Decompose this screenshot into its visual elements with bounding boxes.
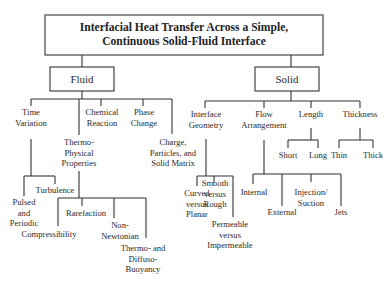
- heat-transfer-tree-diagram: Interfacial Heat Transfer Across a Simpl…: [0, 0, 391, 286]
- thickness-node: Thickness: [336, 109, 384, 120]
- non-newtonian-node: Non- Newtonian: [96, 220, 144, 241]
- title-line-1: Interfacial Heat Transfer Across a Simpl…: [80, 21, 288, 35]
- charge-particles-node: Charge, Particles, and Solid Matrix: [143, 137, 203, 169]
- smooth-rough-node: Smooth versus Rough: [196, 178, 234, 210]
- internal-node: Internal: [236, 187, 272, 198]
- compressibility-node: Compressibility: [16, 229, 82, 240]
- injection-suction-node: Injection/ Suction: [290, 187, 332, 208]
- external-node: External: [262, 207, 302, 218]
- length-node: Length: [292, 109, 330, 120]
- chemical-reaction-node: Chemical Reaction: [80, 107, 124, 128]
- rarefaction-node: Rarefaction: [62, 208, 110, 219]
- jets-node: Jets: [331, 207, 351, 218]
- thick-node: Thick: [357, 150, 389, 161]
- thermo-physical-properties-node: Thermo- Physical Properties: [52, 137, 106, 169]
- time-variation-node: Time Variation: [6, 107, 56, 128]
- thermo-diffuso-buoyancy-node: Thermo- and Diffuso- Buoyancy: [116, 243, 170, 275]
- title-line-2: Continuous Solid-Fluid Interface: [102, 35, 266, 49]
- pulsed-periodic-node: Pulsed and Periodic: [8, 197, 40, 229]
- phase-change-node: Phase Change: [126, 107, 162, 128]
- thin-node: Thin: [327, 150, 351, 161]
- turbulence-node: Turbulence: [32, 185, 78, 196]
- permeable-impermeable-node: Permeable versus Impermeable: [200, 219, 260, 251]
- flow-arrangement-node: Flow Arrangement: [236, 109, 292, 130]
- solid-node: Solid: [255, 67, 319, 91]
- interface-geometry-node: Interface Geometry: [180, 109, 232, 130]
- diagram-title: Interfacial Heat Transfer Across a Simpl…: [45, 15, 323, 55]
- fluid-node: Fluid: [50, 67, 114, 91]
- short-node: Short: [274, 150, 302, 161]
